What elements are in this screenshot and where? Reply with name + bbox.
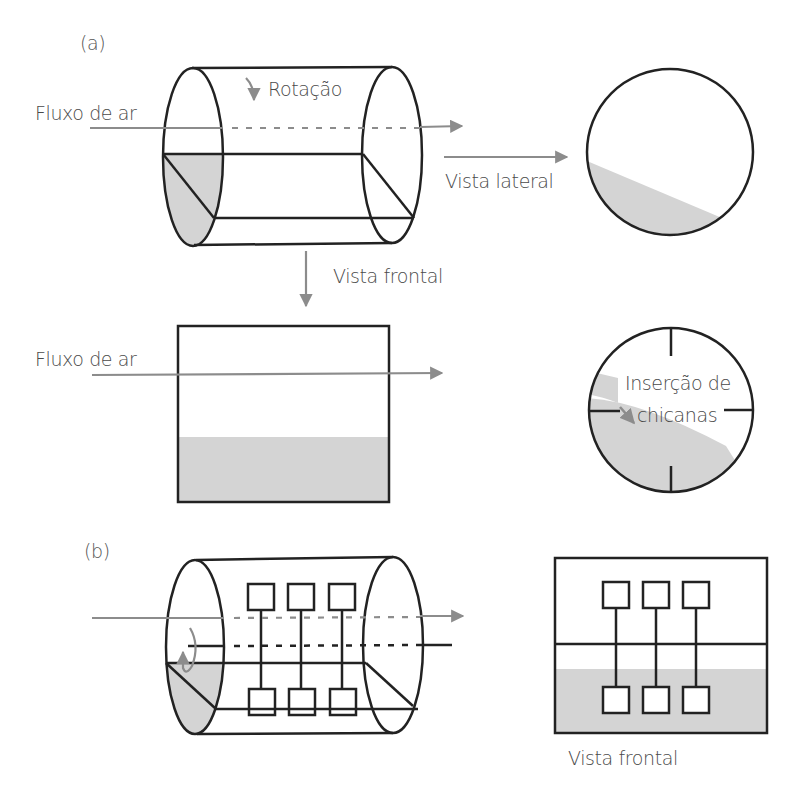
panel-b-label: (b) xyxy=(84,540,110,562)
rotation-label: Rotação xyxy=(268,78,342,100)
baffles-label-line1: Inserção de xyxy=(625,372,731,394)
panel-a-label: (a) xyxy=(80,32,105,54)
panel-a-side-view xyxy=(580,69,760,260)
airflow-label: Fluxo de ar xyxy=(35,102,136,124)
panel-b-drum xyxy=(92,557,463,750)
panel-a-front-view xyxy=(92,326,442,502)
panel-b-front-view xyxy=(555,558,767,733)
rotation-arrow-icon xyxy=(246,78,254,100)
side-view-label: Vista lateral xyxy=(445,170,554,192)
drum-right-end xyxy=(362,67,422,243)
paddle-assembly xyxy=(248,584,356,715)
baffles-label-line2: chicanas xyxy=(637,404,717,426)
airflow-arrow xyxy=(420,126,462,127)
front-airflow-label: Fluxo de ar xyxy=(35,348,136,370)
front-view-label: Vista frontal xyxy=(333,265,443,287)
panel-b-front-view-label: Vista frontal xyxy=(568,747,678,769)
